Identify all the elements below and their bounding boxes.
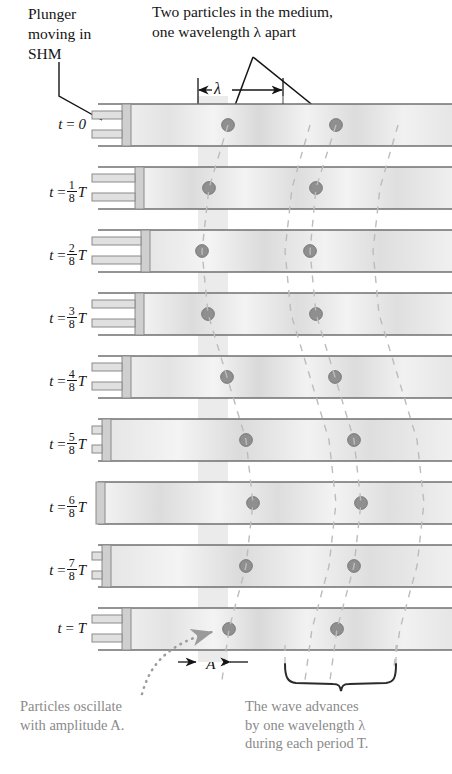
wavelength-brace <box>285 664 396 691</box>
tube-row-6 <box>96 482 452 524</box>
plunger-2 <box>92 230 150 272</box>
plunger-7 <box>92 545 111 587</box>
tube-row-5 <box>92 419 452 461</box>
figure-canvas: Plunger moving in SHM Two particles in t… <box>0 0 452 774</box>
plunger-5 <box>92 419 111 461</box>
plunger-1 <box>92 167 144 209</box>
tube-row-7 <box>92 545 452 587</box>
tube-row-8 <box>92 608 452 650</box>
plunger-3 <box>92 293 144 335</box>
plunger-8 <box>92 608 131 650</box>
plunger-6 <box>96 482 105 524</box>
diagram-artwork <box>0 0 452 774</box>
plunger-4 <box>92 356 131 398</box>
tube-row-2 <box>92 230 452 272</box>
tube-row-3 <box>92 293 452 335</box>
tube-row-1 <box>92 167 452 209</box>
plunger-0 <box>92 104 131 146</box>
